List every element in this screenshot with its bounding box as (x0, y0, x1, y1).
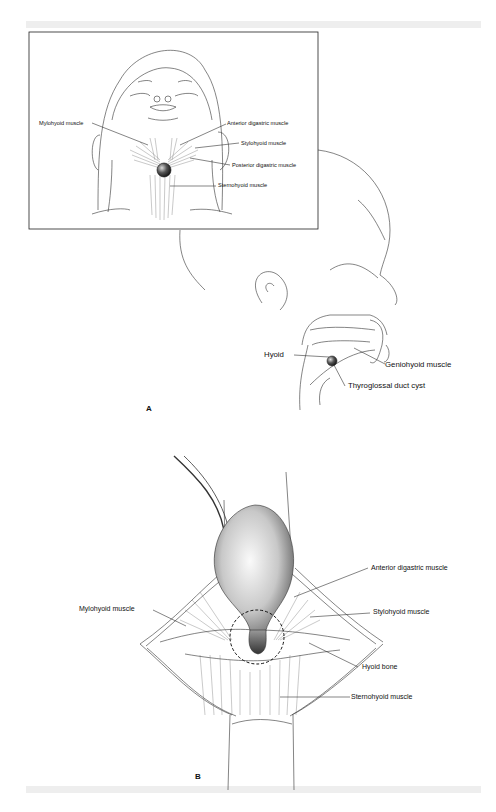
label-geniohyoid: Geniohyoid muscle (385, 360, 451, 369)
surgical-view (140, 456, 383, 790)
label-thyroglossal-cyst: Thyroglossal duct cyst (348, 381, 425, 390)
label-hyoid-bone: Hyoid bone (362, 663, 397, 670)
label-mylohyoid-a: Mylohyoid muscle (39, 120, 83, 126)
label-posterior-digastric-a: Posterior digastric muscle (232, 162, 296, 168)
label-mylohyoid-b: Mylohyoid muscle (79, 605, 135, 612)
label-sternohyoid-a: Sternohyoid muscle (218, 182, 267, 188)
lateral-profile-view (180, 150, 397, 410)
label-anterior-digastric-b: Anterior digastric muscle (371, 564, 448, 571)
label-stylohyoid-a: Stylohyoid muscle (241, 140, 286, 146)
label-stylohyoid-b: Stylohyoid muscle (373, 608, 429, 615)
inset-frontal-view (29, 32, 318, 229)
label-anterior-digastric-a: Anterior digastric muscle (227, 120, 288, 126)
panel-label-a: A (146, 404, 152, 413)
panel-label-b: B (195, 772, 201, 781)
label-hyoid: Hyoid (264, 350, 284, 359)
label-sternohyoid-b: Sternohyoid muscle (351, 693, 412, 700)
